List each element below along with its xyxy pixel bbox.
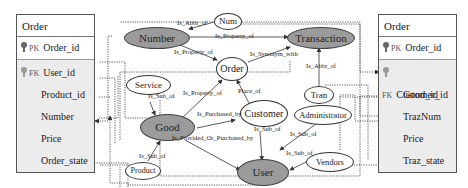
key-icon	[382, 67, 390, 77]
edge-label: Is_Synonym_with	[250, 50, 298, 57]
field-row: Number	[17, 106, 94, 128]
node-product: Product	[125, 162, 161, 180]
field-row: TrazNum	[379, 106, 456, 128]
edge-label: Is_Property_of	[183, 89, 222, 96]
edge-label: Is_Sub_of	[254, 125, 281, 132]
field-row: Price	[17, 128, 94, 150]
pk-tag: PK	[391, 44, 401, 53]
table-title: Order	[17, 15, 94, 37]
pk-row: PKOrder_id	[17, 37, 94, 60]
node-vendors: Vendors	[306, 152, 354, 172]
right-order-table: Order PKOrder_id FKCustomer_id Good_id T…	[378, 14, 457, 173]
edge-label: Is_Property_of	[215, 32, 254, 39]
fk-row: FKCustomer_id	[379, 62, 456, 84]
edge-label: Is_Abbr_of	[177, 19, 207, 26]
field-row: Order_state	[17, 150, 94, 172]
pk-tag: PK	[29, 44, 39, 53]
edge-label: Is_Purchased_by	[197, 110, 241, 117]
table-body: FKCustomer_id Good_id TrazNum Price Traz…	[379, 60, 456, 172]
edge-label: Is_Sub_of	[290, 130, 317, 137]
edge-label: Is_Sub_of	[286, 149, 313, 156]
edge-label: Is_Abbr_of	[306, 62, 336, 69]
key-icon	[20, 42, 28, 52]
field-row: Product_id	[17, 84, 94, 106]
node-num: Num	[214, 13, 242, 30]
table-title: Order	[379, 15, 456, 37]
fk-field: User_id	[43, 67, 75, 78]
edge-label: Place_of	[238, 87, 261, 94]
node-tran: Tran	[304, 86, 334, 104]
field-row: Traz_state	[379, 150, 456, 172]
fk-row: FKUser_id	[17, 62, 94, 84]
fk-tag: FK	[29, 69, 39, 78]
key-icon	[20, 67, 28, 77]
node-number: Number	[124, 27, 190, 49]
edge-label: Is_Sub_of	[139, 152, 166, 159]
edge-label: Is_Property_of	[174, 48, 213, 55]
field-row: Price	[379, 128, 456, 150]
edge-label: Is_Sub_of	[148, 92, 175, 99]
fk-tag: FK	[382, 91, 392, 100]
node-transaction: Transaction	[287, 27, 355, 49]
node-customer: Customer	[240, 100, 288, 127]
pk-field: Order_id	[405, 42, 441, 53]
key-icon	[382, 42, 390, 52]
node-user: User	[237, 159, 289, 186]
pk-row: PKOrder_id	[379, 37, 456, 60]
left-order-table: Order PKOrder_id FKUser_id Product_id Nu…	[16, 14, 95, 173]
node-order: Order	[216, 57, 248, 81]
node-administrator: Administrator	[294, 105, 352, 125]
table-body: FKUser_id Product_id Number Price Order_…	[17, 60, 94, 172]
edge-label: Is_Provided_Or_Purchased_by	[172, 134, 253, 141]
pk-field: Order_id	[43, 42, 79, 53]
